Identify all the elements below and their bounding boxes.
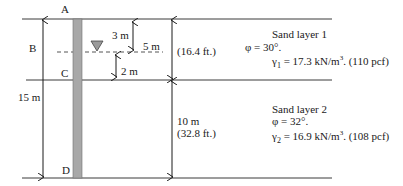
layer1-ft-label: (16.4 ft.)	[177, 45, 216, 57]
soil-profile-diagram	[0, 0, 403, 186]
layer1-gamma: γ1 = 17.3 kN/m3. (110 pcf)	[272, 52, 389, 72]
layer2-m-label: 10 m	[177, 115, 199, 127]
layer2-phi: φ = 32°.	[272, 115, 308, 127]
layer1-m-label: 5 m	[143, 40, 160, 52]
layer2-gamma: γ2 = 16.9 kN/m3. (108 pcf)	[272, 127, 389, 147]
water-table-icon	[91, 41, 103, 51]
pile	[73, 19, 82, 178]
point-b-label: B	[29, 42, 36, 54]
point-c-label: C	[61, 67, 68, 79]
total-depth-label: 15 m	[18, 91, 40, 103]
point-a-label: A	[61, 3, 69, 15]
layer2-ft-label: (32.8 ft.)	[177, 127, 216, 139]
layer2-title: Sand layer 2	[272, 103, 327, 115]
below-water-label: 2 m	[121, 65, 138, 77]
water-depth-label: 3 m	[112, 29, 129, 41]
point-d-label: D	[62, 164, 70, 176]
layer1-title: Sand layer 1	[272, 28, 327, 40]
